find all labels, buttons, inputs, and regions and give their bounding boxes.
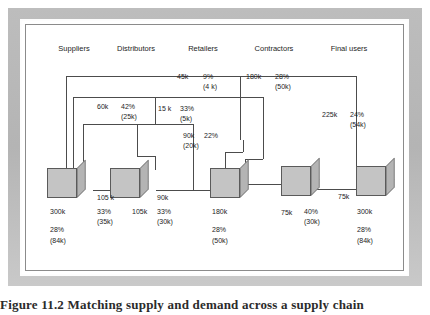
- node-label-final-users-volume: 300k: [357, 207, 372, 217]
- figure-container: Suppliers Distributors Retailers Contrac…: [0, 0, 430, 315]
- return-label-90k-percent: 22%: [204, 131, 218, 141]
- return-label-180k-volume: 180k: [246, 72, 261, 82]
- distributors-inlet-riser: [137, 124, 138, 156]
- flow-90k-junction: [193, 179, 194, 190]
- return-riser-retailers-45k: [240, 76, 241, 140]
- node-label-contractors-volume: 75k: [281, 208, 292, 218]
- return-drop-suppliers-outer: [66, 76, 67, 170]
- return-label-15k-percent: 33%: [180, 104, 194, 114]
- node-label-final-users-absolute: (84k): [357, 236, 373, 246]
- stage-header-retailers: Retailers: [177, 44, 229, 53]
- node-label-retailers-percent: 28%: [212, 225, 226, 235]
- cube-side-face: [311, 158, 319, 196]
- return-label-15k-volume: 15 k: [158, 104, 171, 114]
- node-label-distributors-volume: 105k: [132, 207, 147, 217]
- return-label-225k-volume: 225k: [322, 110, 337, 120]
- return-rail-second: [73, 97, 263, 98]
- retailers-inlet-riser: [243, 140, 244, 152]
- return-riser-contractors-180k: [263, 97, 264, 159]
- forward-label-105k-absolute: (35k): [97, 217, 113, 227]
- forward-label-75k-volume: 75k: [338, 192, 349, 202]
- cube-side-face: [386, 158, 394, 196]
- forward-label-105k-percent: 33%: [97, 207, 111, 217]
- stage-header-contractors: Contractors: [243, 44, 305, 53]
- node-cube-distributors[interactable]: [110, 160, 148, 206]
- stage-header-final-users: Final users: [318, 44, 380, 53]
- distributors-inlet-drop: [155, 156, 156, 170]
- return-label-15k-absolute: (5k): [180, 114, 192, 124]
- cube-side-face: [140, 160, 148, 198]
- node-cube-contractors[interactable]: [281, 158, 319, 204]
- return-label-60k-absolute: (25k): [121, 112, 137, 122]
- return-label-90k-absolute: (20k): [183, 141, 199, 151]
- stage-header-distributors: Distributors: [105, 44, 167, 53]
- return-label-225k-percent: 24%: [350, 110, 364, 120]
- forward-label-75k-absolute: (30k): [304, 217, 320, 227]
- cube-front-face: [47, 168, 77, 198]
- cube-side-face: [240, 160, 248, 198]
- return-label-45k-absolute: (4 k): [203, 82, 217, 92]
- forward-label-90k-volume: 90k: [157, 193, 168, 203]
- return-rail-third: [83, 124, 193, 125]
- stage-header-suppliers: Suppliers: [47, 44, 101, 53]
- node-label-suppliers-percent: 28%: [50, 225, 64, 235]
- node-label-suppliers-absolute: (84k): [50, 236, 66, 246]
- forward-label-90k-absolute: (30k): [157, 217, 173, 227]
- return-label-60k-volume: 60k: [97, 102, 108, 112]
- cube-side-face: [77, 160, 85, 198]
- return-label-45k-volume: 45k: [177, 72, 188, 82]
- node-cube-suppliers[interactable]: [47, 160, 85, 206]
- node-label-suppliers-volume: 300k: [50, 207, 65, 217]
- contractors-left-inlet: [245, 184, 281, 185]
- node-cube-retailers[interactable]: [210, 160, 248, 206]
- node-label-final-users-percent: 28%: [357, 225, 371, 235]
- node-label-retailers-volume: 180k: [212, 207, 227, 217]
- cube-front-face: [110, 168, 140, 198]
- forward-label-75k-percent: 40%: [304, 207, 318, 217]
- cube-front-face: [281, 166, 311, 196]
- forward-label-90k-percent: 33%: [157, 207, 171, 217]
- return-label-180k-absolute: (50k): [275, 82, 291, 92]
- cube-front-face: [210, 168, 240, 198]
- flow-distributors-retailers: [156, 190, 210, 191]
- return-label-180k-percent: 28%: [275, 72, 289, 82]
- return-label-225k-absolute: (54k): [350, 120, 366, 130]
- retailers-inlet-elbow: [225, 152, 243, 153]
- return-label-45k-percent: 9%: [203, 72, 213, 82]
- node-cube-final-users[interactable]: [356, 158, 394, 204]
- return-label-90k-volume: 90k: [183, 131, 194, 141]
- distributors-inlet-elbow: [137, 156, 155, 157]
- figure-caption: Figure 11.2 Matching supply and demand a…: [0, 297, 430, 315]
- return-label-60k-percent: 42%: [121, 102, 135, 112]
- cube-front-face: [356, 166, 386, 196]
- node-label-retailers-absolute: (50k): [212, 236, 228, 246]
- return-riser-15k: [155, 97, 156, 124]
- forward-label-105k-volume: 105 k: [97, 193, 114, 203]
